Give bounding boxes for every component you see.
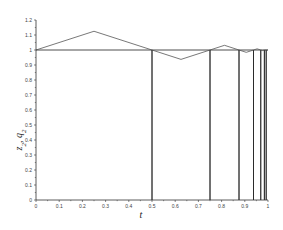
y-tick-label: 0.4: [25, 137, 32, 143]
y-tick-label: 1: [29, 47, 32, 53]
x-tick-label: 0.5: [149, 203, 156, 209]
y-tick-label: 0.5: [25, 122, 32, 128]
y-tick-label: 1.2: [25, 17, 32, 23]
series-z2-line: [36, 50, 268, 200]
y-tick-label: 0.9: [25, 62, 32, 68]
y-tick-label: 0.3: [25, 152, 32, 158]
y-tick-label: 0.6: [25, 107, 32, 113]
chart: 00.10.20.30.40.50.60.70.80.91 00.10.20.3…: [0, 0, 283, 230]
x-tick-label: 0.3: [102, 203, 109, 209]
y-tick-label: 1.1: [25, 32, 32, 38]
y-tick-label: 0.8: [25, 77, 32, 83]
x-tick-label: 0.2: [79, 203, 86, 209]
y-title-sub2: 2: [20, 129, 28, 133]
y-axis: 00.10.20.30.40.50.60.70.80.911.11.2: [25, 17, 36, 203]
x-tick-label: 0: [35, 203, 38, 209]
x-axis-title: t: [140, 209, 143, 220]
y-tick-label: 0.1: [25, 182, 32, 188]
x-tick-label: 0.1: [56, 203, 63, 209]
plot-area: [36, 31, 268, 200]
x-tick-label: 0.7: [195, 203, 202, 209]
x-tick-label: 1: [267, 203, 270, 209]
x-tick-label: 0.6: [172, 203, 179, 209]
y-tick-label: 0.2: [25, 167, 32, 173]
x-tick-label: 0.9: [241, 203, 248, 209]
x-tick-label: 0.4: [125, 203, 132, 209]
y-tick-label: 0.7: [25, 92, 32, 98]
x-tick-label: 0.8: [218, 203, 225, 209]
y-tick-label: 0: [29, 197, 32, 203]
x-axis: 00.10.20.30.40.50.60.70.80.91: [35, 200, 270, 209]
